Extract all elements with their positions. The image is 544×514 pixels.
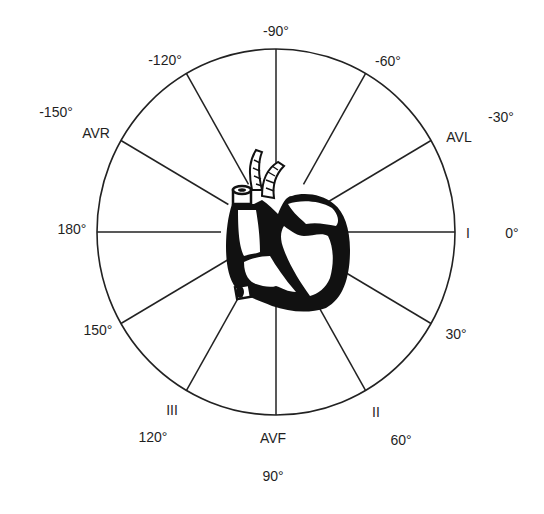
- label-90-degrees: 90°: [262, 468, 283, 484]
- aorta-icon: [250, 150, 284, 198]
- label-150-degrees: 150°: [84, 322, 113, 338]
- label-lead-avl: AVL: [446, 129, 471, 145]
- axis-line-150: [121, 260, 228, 324]
- label-0-degrees: 0°: [505, 225, 518, 241]
- axis-line-minus-30: [324, 141, 431, 205]
- label-lead-iii: III: [166, 402, 178, 418]
- label-lead-i: I: [466, 225, 470, 241]
- label-120-degrees: 120°: [139, 429, 168, 445]
- hexaxial-diagram: -90° -120° -60° -150° AVR -30° AVL 180° …: [0, 0, 544, 514]
- label-180-degrees: 180°: [58, 221, 87, 237]
- label-minus-90-degrees: -90°: [263, 23, 289, 39]
- axis-line-minus-150: [121, 141, 228, 205]
- inferior-vena-cava-icon: [235, 285, 251, 299]
- label-minus-120-degrees: -120°: [148, 52, 182, 68]
- label-minus-30-degrees: -30°: [488, 109, 514, 125]
- label-lead-avr: AVR: [82, 125, 110, 141]
- vena-cava-icon: [233, 186, 251, 204]
- label-lead-avf: AVF: [260, 430, 286, 446]
- axis-line-minus-60: [304, 74, 366, 185]
- label-60-degrees: 60°: [390, 432, 411, 448]
- axis-line-minus-120: [187, 74, 249, 185]
- label-minus-150-degrees: -150°: [39, 104, 73, 120]
- label-minus-60-degrees: -60°: [375, 53, 401, 69]
- label-lead-ii: II: [372, 404, 380, 420]
- label-30-degrees: 30°: [445, 326, 466, 342]
- heart-icon: [226, 150, 350, 312]
